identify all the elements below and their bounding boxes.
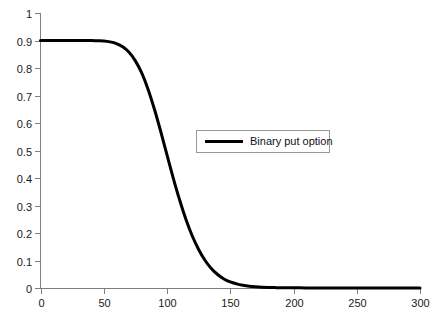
x-tick-label: 100 xyxy=(158,297,176,309)
x-tick-label: 250 xyxy=(348,297,366,309)
y-tick-label: 0.3 xyxy=(17,201,32,213)
x-tick-label: 50 xyxy=(98,297,110,309)
y-tick-label: 0.6 xyxy=(17,118,32,130)
line-chart: 00.10.20.30.40.50.60.70.80.91 0501001502… xyxy=(0,0,438,323)
y-tick-label: 0.1 xyxy=(17,256,32,268)
y-tick-label: 1 xyxy=(26,8,32,20)
chart-container: 00.10.20.30.40.50.60.70.80.91 0501001502… xyxy=(0,0,438,323)
y-tick-label: 0.2 xyxy=(17,228,32,240)
y-tick-label: 0 xyxy=(26,283,32,295)
x-tick-label: 0 xyxy=(38,297,44,309)
y-tick-label: 0.4 xyxy=(17,173,32,185)
y-tick-label: 0.7 xyxy=(17,91,32,103)
y-tick-label: 0.8 xyxy=(17,63,32,75)
chart-legend[interactable]: Binary put option xyxy=(197,131,333,153)
x-tick-label: 150 xyxy=(221,297,239,309)
y-tick-label: 0.5 xyxy=(17,146,32,158)
legend-label-binary-put-option: Binary put option xyxy=(250,135,333,147)
x-tick-label: 300 xyxy=(411,297,429,309)
y-tick-label: 0.9 xyxy=(17,36,32,48)
x-tick-label: 200 xyxy=(285,297,303,309)
